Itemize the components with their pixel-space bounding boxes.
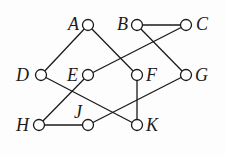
node-label-a: A: [68, 15, 79, 33]
graph-diagram: A B C D E F G H J K: [0, 0, 225, 156]
node-b: [132, 20, 143, 31]
edge-c-e: [88, 25, 186, 75]
node-label-f: F: [146, 66, 157, 84]
node-label-g: G: [195, 66, 208, 84]
node-j: [83, 120, 94, 131]
node-label-c: C: [196, 15, 208, 33]
edge-a-d: [41, 25, 88, 75]
graph-canvas: [0, 0, 225, 156]
node-d: [36, 70, 47, 81]
edge-a-f: [88, 25, 137, 75]
node-label-k: K: [146, 116, 158, 134]
node-h: [34, 120, 45, 131]
edge-b-g: [137, 25, 186, 75]
node-c: [181, 20, 192, 31]
edge-d-k: [41, 75, 137, 125]
node-k: [132, 120, 143, 131]
node-label-b: B: [117, 15, 128, 33]
node-label-h: H: [16, 116, 29, 134]
node-label-e: E: [67, 66, 78, 84]
node-label-j: J: [74, 103, 82, 121]
node-f: [132, 70, 143, 81]
node-label-d: D: [16, 66, 29, 84]
node-a: [83, 20, 94, 31]
node-e: [83, 70, 94, 81]
node-g: [181, 70, 192, 81]
